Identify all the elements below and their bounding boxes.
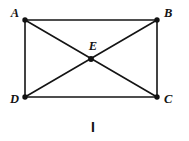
vertex-label-a: A <box>10 6 19 20</box>
vertex-dot-b <box>154 17 159 22</box>
vertex-dot-a <box>22 17 27 22</box>
vertex-dot-d <box>22 94 27 99</box>
vertex-dot-e <box>88 56 94 62</box>
vertex-label-c: C <box>164 92 173 106</box>
vertex-labels: A B C D E <box>9 6 173 106</box>
geometry-figure-container: A B C D E I <box>0 0 189 141</box>
vertex-label-d: D <box>9 92 19 106</box>
figure-caption: I <box>91 119 95 135</box>
vertex-label-e: E <box>88 39 97 53</box>
vertex-label-b: B <box>163 6 172 20</box>
geometry-figure-canvas: A B C D E I <box>0 0 189 141</box>
vertex-dot-c <box>154 94 159 99</box>
